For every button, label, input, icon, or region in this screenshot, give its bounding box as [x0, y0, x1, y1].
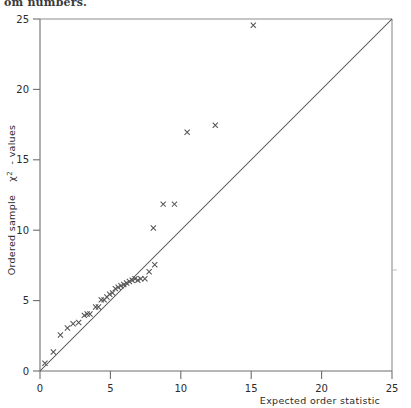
scatter-point [147, 269, 152, 274]
y-tick-label: 5 [23, 295, 29, 306]
scatter-point [70, 321, 75, 326]
scatter-point [76, 320, 81, 325]
scatter-point [152, 262, 157, 267]
scatter-marker-group [42, 23, 256, 366]
y-axis-title: Ordered sample χ2 - values [6, 125, 17, 276]
scatter-point [65, 325, 70, 330]
scatter-point [151, 225, 156, 230]
y-tick-labels: 0 5 10 15 20 25 [16, 14, 29, 377]
scatter-point [96, 304, 101, 309]
chart-canvas: 0 5 10 15 20 25 0 5 10 15 20 25 Expected… [0, 0, 411, 408]
y-tick-label: 10 [16, 225, 29, 236]
caption-text-fragment: om numbers. [4, 0, 87, 9]
scatter-point [142, 276, 147, 281]
scatter-point [251, 23, 256, 28]
scatter-point [93, 304, 98, 309]
x-tick-label: 25 [386, 383, 399, 394]
qq-plot-figure: om numbers. 0 [0, 0, 411, 408]
scatter-point [51, 349, 56, 354]
y-axis-ticks [33, 19, 40, 371]
scatter-point [58, 332, 63, 337]
scatter-point [99, 297, 104, 302]
x-axis-title: Expected order statistic [260, 395, 380, 406]
scatter-point [213, 123, 218, 128]
scatter-point [161, 202, 166, 207]
y-tick-label: 15 [16, 154, 29, 165]
x-tick-label: 20 [315, 383, 328, 394]
y-axis-title-suffix: - values [6, 125, 17, 165]
svg-text:Ordered sample: Ordered sample χ2 - values [6, 125, 17, 276]
x-tick-label: 10 [174, 383, 187, 394]
x-tick-labels: 0 5 10 15 20 25 [37, 383, 399, 394]
scatter-point [42, 361, 47, 366]
x-tick-label: 15 [245, 383, 258, 394]
x-axis-ticks [40, 371, 392, 379]
scatter-point [185, 130, 190, 135]
scatter-point [87, 311, 92, 316]
x-tick-label: 5 [107, 383, 113, 394]
y-axis-title-prefix: Ordered sample [6, 195, 17, 275]
y-tick-label: 0 [23, 366, 29, 377]
scatter-point [172, 202, 177, 207]
x-tick-label: 0 [37, 383, 43, 394]
y-tick-label: 20 [16, 84, 29, 95]
y-tick-label: 25 [16, 14, 29, 25]
reference-line-y-equals-x [40, 19, 392, 371]
